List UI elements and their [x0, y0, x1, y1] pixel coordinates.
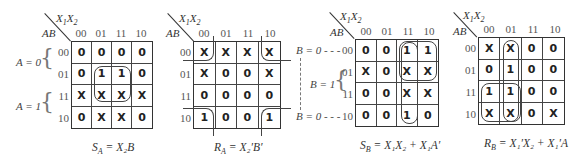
a1-label: A = 1	[16, 100, 41, 112]
group-corner-br	[261, 108, 291, 136]
group-corner-tl	[183, 36, 214, 61]
equation-sa: SA = X₂B	[92, 141, 134, 156]
row-label: 11	[458, 86, 476, 98]
col-label: 01	[91, 27, 111, 39]
col-label: 00	[71, 27, 91, 39]
cell: 0	[418, 105, 439, 127]
group-corner-bl	[183, 108, 214, 136]
row-variable-label: AB	[330, 26, 343, 38]
cell: 0	[259, 85, 281, 107]
cell: 0	[216, 107, 238, 129]
cell: 0	[377, 83, 398, 105]
cell: X	[72, 85, 92, 107]
cell: 0	[132, 107, 152, 129]
cell: 0	[112, 42, 132, 64]
col-label: 10	[545, 23, 565, 35]
cell: 0	[92, 42, 112, 64]
row-label: 10	[458, 108, 476, 120]
eq-sub: A	[221, 147, 226, 156]
col-variable-label: X1X2	[56, 12, 77, 27]
cell: 0	[522, 103, 543, 125]
cell: 0	[522, 38, 543, 60]
row-label: 01	[173, 68, 191, 80]
col-label: 11	[111, 27, 131, 39]
cell: X	[479, 38, 500, 60]
col-label: 11	[238, 27, 258, 39]
eq-rhs: X₁X₂ + X₁A′	[384, 139, 440, 151]
eq-rhs: X₂B	[116, 141, 134, 153]
b0-label-2: B = 0 - - -	[296, 110, 340, 122]
eq-sub: B	[491, 143, 496, 152]
row-label: 11	[173, 90, 191, 102]
col-variable-label: X1X2	[463, 9, 484, 24]
eq-lhs: R	[214, 141, 221, 153]
dashed-connector	[300, 58, 301, 110]
cell: X	[112, 107, 132, 129]
cell: 0	[543, 60, 564, 82]
row-variable-label: AB	[453, 25, 466, 37]
cell: 0	[216, 85, 238, 107]
col-label: 01	[501, 23, 521, 35]
cell: X	[418, 83, 439, 105]
col-label: 10	[131, 27, 151, 39]
cell: X	[132, 85, 152, 107]
cell: X	[543, 103, 564, 125]
cell: X	[237, 42, 259, 64]
cell: 0	[132, 64, 152, 86]
cell: X	[216, 42, 238, 64]
cell: 0	[194, 85, 216, 107]
cell: 0	[356, 40, 377, 62]
cell: 0	[132, 42, 152, 64]
cell: 0	[237, 107, 259, 129]
cell: 0	[356, 105, 377, 127]
a0-label: A = 0	[16, 56, 41, 68]
brace: {	[40, 47, 54, 69]
row-label: 00	[458, 42, 476, 54]
cell: 0	[72, 42, 92, 64]
col-label: 01	[216, 27, 236, 39]
eq-lhs: R	[484, 137, 491, 149]
col-label: 10	[419, 25, 439, 37]
equation-rb: RB = X₁′X₂ + X₁′A	[484, 137, 568, 152]
row-label: 11	[335, 88, 353, 100]
cell: 0	[543, 81, 564, 103]
cell: 0	[479, 60, 500, 82]
eq-sub: B	[366, 145, 371, 154]
cell: 0	[522, 81, 543, 103]
cell: X	[259, 64, 281, 86]
row-variable-label: AB	[42, 27, 55, 39]
row-label: 01	[458, 64, 476, 76]
cell: 0	[377, 62, 398, 84]
cell: 0	[72, 64, 92, 86]
equation-sb: SB = X₁X₂ + X₁A′	[360, 139, 440, 154]
cell: 0	[522, 60, 543, 82]
col-label: 11	[398, 25, 418, 37]
col-label: 00	[356, 25, 376, 37]
cell: 0	[237, 64, 259, 86]
cell: 0	[216, 64, 238, 86]
cell: X	[194, 64, 216, 86]
cell: X	[92, 107, 112, 129]
row-label: 00	[335, 44, 353, 56]
group-loop	[94, 66, 131, 102]
b1-label: B = 1	[310, 78, 335, 90]
cell: 0	[237, 85, 259, 107]
cell: 0	[543, 38, 564, 60]
cell: 0	[72, 107, 92, 129]
eq-rhs: X₂′B′	[239, 141, 262, 153]
row-variable-label: AB	[166, 27, 179, 39]
group-corner-tr	[261, 36, 291, 61]
col-label: 00	[479, 23, 499, 35]
row-label: 01	[335, 66, 353, 78]
eq-rhs: X₁′X₂ + X₁′A	[509, 137, 568, 149]
col-label: 11	[523, 23, 543, 35]
cell: 0	[377, 105, 398, 127]
group-loop-square	[481, 83, 521, 122]
b0-label: B = 0 - - -	[296, 44, 340, 56]
col-variable-label: X1X2	[340, 10, 361, 25]
brace: {	[40, 91, 54, 113]
equation-ra: RA = X₂′B′	[214, 141, 263, 156]
eq-sub: A	[98, 147, 103, 156]
cell: 0	[356, 83, 377, 105]
row-label: 10	[335, 110, 353, 122]
